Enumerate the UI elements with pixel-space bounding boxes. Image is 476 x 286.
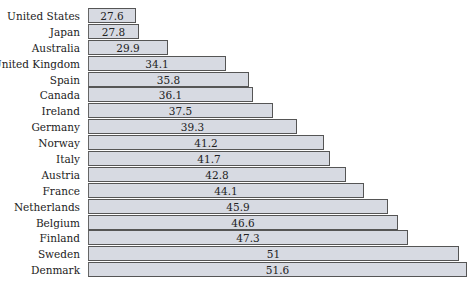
chart-row: Belgium46.6 bbox=[0, 215, 476, 231]
bar: 47.3 bbox=[88, 230, 408, 245]
bar: 34.1 bbox=[88, 56, 226, 71]
chart-row: Netherlands45.9 bbox=[0, 199, 476, 215]
category-label: Austria bbox=[41, 167, 80, 183]
category-label: Germany bbox=[31, 119, 80, 135]
bar: 45.9 bbox=[88, 199, 388, 214]
bar: 35.8 bbox=[88, 72, 249, 87]
category-label: Finland bbox=[39, 230, 80, 246]
chart-row: France44.1 bbox=[0, 183, 476, 199]
bar: 29.9 bbox=[88, 40, 168, 55]
bar: 41.7 bbox=[88, 151, 330, 166]
category-label: Canada bbox=[40, 87, 80, 103]
bar: 51.6 bbox=[88, 262, 467, 277]
bar: 44.1 bbox=[88, 183, 364, 198]
category-label: Italy bbox=[56, 151, 80, 167]
chart-row: Norway41.2 bbox=[0, 135, 476, 151]
bar: 27.6 bbox=[88, 8, 136, 23]
chart-row: Germany39.3 bbox=[0, 119, 476, 135]
chart-row: Austria42.8 bbox=[0, 167, 476, 183]
chart-row: Japan27.8 bbox=[0, 24, 476, 40]
category-label: United States bbox=[7, 8, 80, 24]
bar: 39.3 bbox=[88, 119, 297, 134]
category-label: Ireland bbox=[42, 103, 80, 119]
chart-row: Canada36.1 bbox=[0, 87, 476, 103]
bar: 27.8 bbox=[88, 24, 139, 39]
chart-row: United Kingdom34.1 bbox=[0, 56, 476, 72]
chart-row: Denmark51.6 bbox=[0, 262, 476, 278]
chart-row: Finland47.3 bbox=[0, 230, 476, 246]
chart-row: Sweden51 bbox=[0, 246, 476, 262]
category-label: Australia bbox=[32, 40, 80, 56]
category-label: Norway bbox=[38, 135, 80, 151]
category-label: Denmark bbox=[31, 262, 80, 278]
category-label: Netherlands bbox=[14, 199, 80, 215]
bar: 51 bbox=[88, 246, 459, 261]
chart-row: Australia29.9 bbox=[0, 40, 476, 56]
category-label: United Kingdom bbox=[0, 56, 80, 72]
chart-row: United States27.6 bbox=[0, 8, 476, 24]
category-label: Spain bbox=[50, 72, 80, 88]
bar: 41.2 bbox=[88, 135, 324, 150]
bar: 37.5 bbox=[88, 103, 273, 118]
bar: 42.8 bbox=[88, 167, 346, 182]
category-label: France bbox=[43, 183, 80, 199]
chart-row: Ireland37.5 bbox=[0, 103, 476, 119]
bar: 46.6 bbox=[88, 215, 398, 230]
bar-chart: United States27.6Japan27.8Australia29.9U… bbox=[0, 8, 476, 278]
category-label: Belgium bbox=[36, 215, 80, 231]
chart-row: Italy41.7 bbox=[0, 151, 476, 167]
chart-row: Spain35.8 bbox=[0, 72, 476, 88]
category-label: Japan bbox=[50, 24, 80, 40]
category-label: Sweden bbox=[38, 246, 80, 262]
bar: 36.1 bbox=[88, 87, 253, 102]
